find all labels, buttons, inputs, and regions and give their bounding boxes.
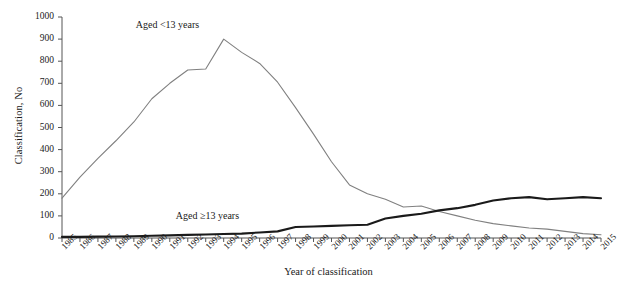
series-line-aged-under-13 [62, 39, 601, 235]
x-axis-title: Year of classification [0, 266, 617, 277]
series-annotation-label: Aged ≥13 years [176, 210, 239, 221]
axis-lines [62, 17, 601, 238]
y-axis-tick-label: 100 [20, 211, 54, 221]
y-axis-tick-label: 300 [20, 167, 54, 177]
y-axis-tick-label: 500 [20, 123, 54, 133]
y-axis-tick-label: 400 [20, 145, 54, 155]
y-axis-tick-label: 900 [20, 34, 54, 44]
y-axis-ticks [58, 17, 62, 238]
y-axis-tick-label: 600 [20, 100, 54, 110]
line-chart-plot [0, 0, 617, 288]
data-series-group [62, 39, 601, 237]
y-axis-tick-label: 800 [20, 56, 54, 66]
y-axis-tick-label: 0 [20, 233, 54, 243]
chart-figure: Classification, No 010020030040050060070… [0, 0, 617, 288]
y-axis-tick-label: 200 [20, 189, 54, 199]
y-axis-tick-label: 1000 [20, 12, 54, 22]
y-axis-tick-label: 700 [20, 78, 54, 88]
series-annotation-label: Aged <13 years [136, 19, 199, 30]
